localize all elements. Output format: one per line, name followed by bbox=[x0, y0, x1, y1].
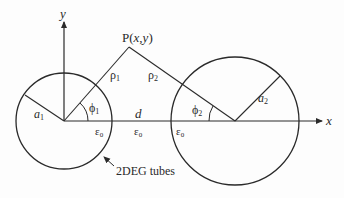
eps0-label-between: ε0 bbox=[134, 125, 143, 139]
rho1-label: ρ1 bbox=[110, 68, 120, 83]
phi1-arc bbox=[80, 103, 88, 121]
phi1-label: ϕ1 bbox=[89, 101, 99, 116]
d-label: d bbox=[135, 106, 142, 121]
diagram-svg: y x P(x,y) ρ1 ρ2 a1 a2 ϕ1 ϕ2 d ε0 ε0 ε0 … bbox=[0, 0, 344, 198]
x-axis-label: x bbox=[325, 113, 332, 128]
tubes-pointer-line bbox=[104, 157, 114, 166]
phi2-label: ϕ2 bbox=[192, 103, 202, 118]
diagram-canvas: y x P(x,y) ρ1 ρ2 a1 a2 ϕ1 ϕ2 d ε0 ε0 ε0 … bbox=[0, 0, 344, 198]
eps0-label-tube2: ε0 bbox=[176, 125, 185, 139]
y-axis-label: y bbox=[58, 6, 66, 21]
rho2-line bbox=[129, 47, 235, 121]
phi2-arc bbox=[209, 106, 213, 121]
eps0-label-tube1: ε0 bbox=[95, 125, 104, 139]
tubes-label: 2DEG tubes bbox=[116, 164, 175, 178]
a1-radius-line bbox=[25, 95, 64, 121]
rho2-label: ρ2 bbox=[148, 68, 158, 83]
a1-label: a1 bbox=[34, 107, 44, 122]
a2-label: a2 bbox=[258, 91, 268, 106]
point-p-label: P(x,y) bbox=[122, 30, 153, 45]
